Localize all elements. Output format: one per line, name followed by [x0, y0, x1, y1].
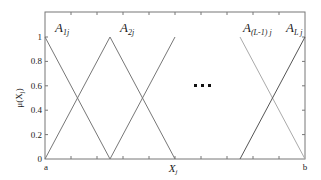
- label-al1j: A(L-1) j: [242, 20, 272, 37]
- label-a2j: A2j: [119, 20, 135, 37]
- series-lines: [45, 37, 305, 159]
- y-tick-0.4: 0.4: [31, 105, 43, 115]
- y-tick-labels: 0 0.2 0.4 0.6 0.8 1: [31, 32, 43, 164]
- y-tick-0: 0: [38, 154, 43, 164]
- y-tick-0.2: 0.2: [31, 130, 42, 140]
- label-alj: AL j: [285, 20, 303, 37]
- label-a1j: A1j: [54, 20, 70, 37]
- x-tick-a: a: [44, 162, 48, 172]
- series-a2j: [45, 37, 175, 159]
- y-tick-1: 1: [38, 32, 43, 42]
- x-axis-label: Xj: [168, 162, 178, 176]
- y-tick-0.8: 0.8: [31, 56, 43, 66]
- y-axis-label: μ(Xj): [14, 88, 26, 107]
- x-tick-b: b: [303, 162, 308, 172]
- ellipsis-icon: [194, 84, 211, 87]
- svg-text:μ(Xj): μ(Xj): [14, 88, 26, 107]
- membership-function-chart: 0 0.2 0.4 0.6 0.8 1 μ(Xj) a b Xj A1j A2j…: [0, 0, 321, 180]
- y-tick-0.6: 0.6: [31, 81, 43, 91]
